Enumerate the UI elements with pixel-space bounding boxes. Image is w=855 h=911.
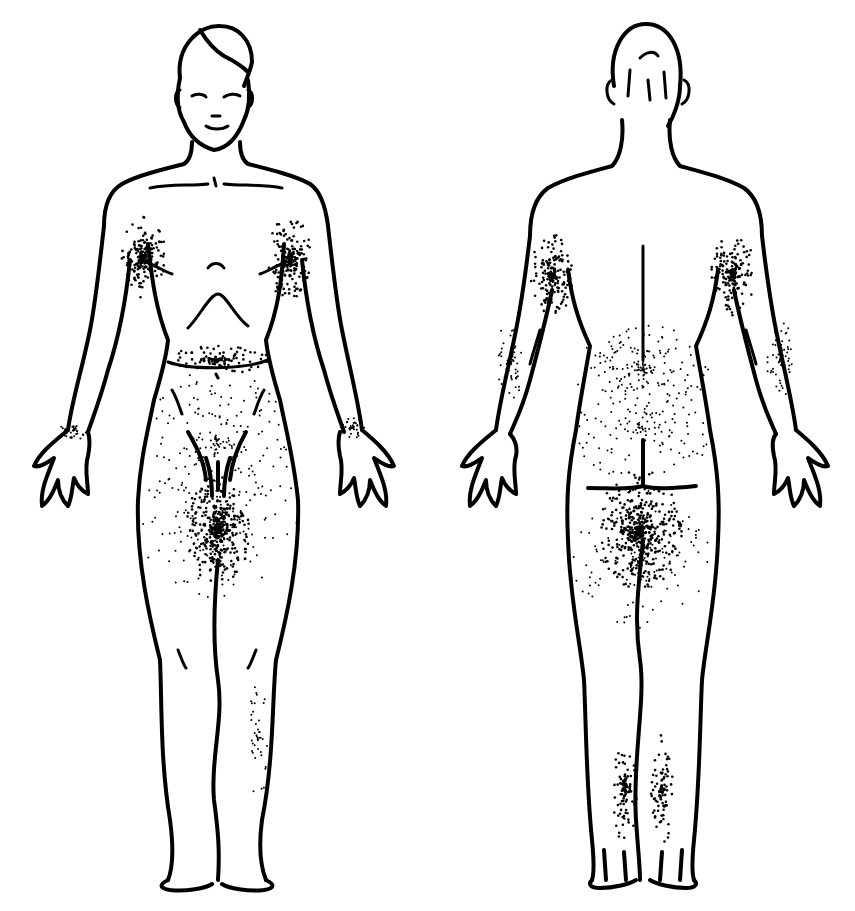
front-inner-arms <box>88 260 344 432</box>
back-hair <box>628 52 666 100</box>
front-left-hand <box>339 430 395 506</box>
front-right-hand <box>34 430 90 506</box>
front-face <box>192 94 240 129</box>
stipple-right-calf-outer <box>250 686 268 792</box>
back-left-hand <box>773 430 828 506</box>
back-gluteal-cleft <box>588 440 696 489</box>
back-right-hand <box>462 430 517 506</box>
front-view-figure <box>34 26 394 891</box>
stipple-posterior-thighs <box>571 490 709 631</box>
back-view-figure <box>462 24 828 888</box>
stipple-left-axilla-back <box>710 239 753 317</box>
back-head <box>613 24 681 126</box>
body-diagram <box>0 0 855 911</box>
stipple-left-calf-back <box>650 734 674 843</box>
stipple-shading <box>60 216 793 843</box>
front-pectorals <box>146 262 286 328</box>
stipple-right-wrist <box>60 421 87 440</box>
body-diagram-svg <box>0 0 855 911</box>
stipple-right-axilla-back <box>530 234 573 314</box>
back-feet <box>590 850 696 888</box>
stipple-buttocks-sides <box>578 381 712 475</box>
front-head <box>178 78 249 150</box>
front-inner-legs <box>213 560 219 880</box>
front-ears <box>176 90 253 108</box>
front-hair <box>180 26 252 86</box>
front-clavicles <box>150 178 282 188</box>
front-hip-creases <box>172 390 264 414</box>
